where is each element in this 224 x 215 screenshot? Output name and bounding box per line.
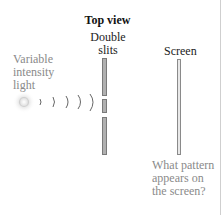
wavefront-icons: [40, 94, 93, 111]
slit-barrier-middle: [102, 99, 107, 113]
screen-bar: [177, 59, 181, 155]
slit-barrier-top: [102, 58, 107, 96]
light-source-icon: [13, 91, 35, 113]
page-edge-divider: [220, 0, 221, 215]
question-line-3: the screen?: [152, 185, 214, 198]
slit-barrier-bottom: [102, 117, 107, 155]
question-text: What pattern appears on the screen?: [152, 159, 214, 198]
